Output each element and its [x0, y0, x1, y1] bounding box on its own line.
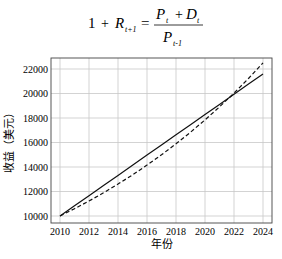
y-tick-label: 20000: [23, 88, 48, 99]
y-tick-label: 22000: [23, 64, 48, 75]
y-tick-label: 14000: [23, 162, 48, 173]
formula-plus-1: +: [101, 16, 109, 31]
x-axis-label: 年份: [151, 237, 173, 250]
formula-num-P: P: [155, 6, 165, 22]
x-tick-label: 2016: [137, 226, 157, 237]
grid: [51, 58, 272, 223]
line-chart: 10000120001400016000180002000022000 2010…: [0, 50, 282, 259]
formula-R-sub: t+1: [125, 25, 137, 34]
x-tick-label: 2010: [50, 226, 70, 237]
plot-frame: [51, 58, 272, 223]
x-tick-label: 2020: [195, 226, 215, 237]
formula-one: 1: [88, 15, 96, 31]
x-tick-label: 2014: [108, 226, 128, 237]
formula-num-D: D: [185, 6, 197, 22]
y-tick-labels: 10000120001400016000180002000022000: [23, 64, 48, 222]
y-tick-label: 16000: [23, 137, 48, 148]
series-lines: [60, 63, 263, 216]
formula-num-P-sub: t: [166, 16, 169, 25]
formula-den-P: P: [162, 29, 172, 45]
y-tick-label: 18000: [23, 113, 48, 124]
x-tick-label: 2018: [166, 226, 186, 237]
y-tick-label: 10000: [23, 211, 48, 222]
formula-den-P-sub: t-1: [173, 39, 182, 48]
x-tick-labels: 20102012201420162018202020222024: [50, 226, 273, 237]
formula-num-D-sub: t: [197, 16, 200, 25]
formula-plus-2: +: [175, 7, 183, 22]
x-tick-label: 2022: [224, 226, 244, 237]
y-tick-label: 12000: [23, 186, 48, 197]
formula-equals: =: [141, 15, 149, 31]
formula-R: R: [114, 15, 124, 31]
x-tick-label: 2012: [79, 226, 99, 237]
series-dashed-line: [60, 63, 263, 216]
y-axis-label: 收益（美元）: [2, 107, 15, 173]
formula: 1 + R t+1 = P t + D t P t-1: [0, 0, 282, 50]
x-tick-label: 2024: [253, 226, 273, 237]
